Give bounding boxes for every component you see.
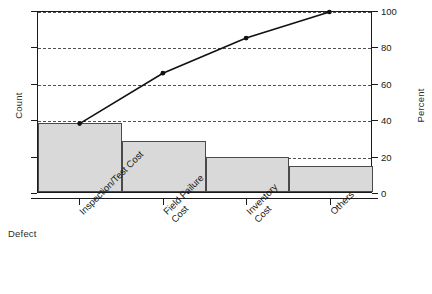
line-marker (160, 71, 165, 76)
line-marker (327, 10, 332, 15)
y-axis-left-tick (31, 120, 37, 121)
y-axis-right-title: Percent (415, 76, 426, 136)
y-axis-right-tick (372, 11, 378, 12)
y-axis-left-tick (31, 84, 37, 85)
cumulative-line (80, 12, 330, 124)
x-axis-category-label-line: Others (328, 189, 356, 217)
x-axis-category-label: Others (328, 189, 356, 217)
pareto-chart: Count Percent Defect 020406080100 Inspec… (0, 0, 432, 294)
line-marker (244, 36, 249, 41)
y-axis-left-title: Count (13, 76, 24, 136)
line-marker (77, 121, 82, 126)
y-axis-left-tick (31, 193, 37, 194)
y-axis-left-tick (31, 47, 37, 48)
y-axis-right-tick (372, 157, 378, 158)
y-axis-right-tick-label: 80 (381, 42, 392, 53)
plot-area (37, 11, 372, 193)
x-axis-line (31, 198, 378, 199)
y-axis-right-tick-label: 0 (381, 188, 386, 199)
y-axis-left-tick (31, 157, 37, 158)
y-axis-right-tick-label: 100 (381, 6, 397, 17)
x-axis-tick (163, 198, 164, 205)
y-axis-right-tick-label: 20 (381, 151, 392, 162)
y-axis-right-tick (372, 193, 378, 194)
y-axis-right-tick (372, 47, 378, 48)
y-axis-right-tick-label: 60 (381, 78, 392, 89)
y-axis-right-tick (372, 84, 378, 85)
y-axis-left-tick (31, 11, 37, 12)
y-axis-right-tick-label: 40 (381, 115, 392, 126)
x-axis-tick (330, 198, 331, 205)
x-axis-title: Defect (8, 228, 37, 239)
y-axis-right-tick (372, 120, 378, 121)
x-axis-tick (79, 198, 80, 205)
cumulative-line-layer (38, 12, 371, 192)
